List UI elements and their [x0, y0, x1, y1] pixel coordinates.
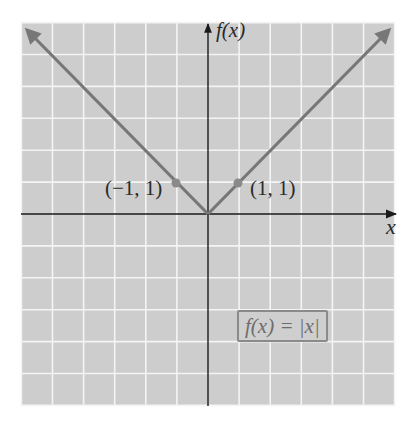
point-neg1-1 — [172, 179, 181, 188]
equation-text: f(x) = |x| — [245, 314, 320, 338]
point-1-1 — [234, 179, 243, 188]
point-label-left: (−1, 1) — [105, 176, 162, 201]
point-label-right: (1, 1) — [250, 176, 296, 201]
x-axis-label: x — [386, 214, 396, 240]
y-axis-label: f(x) — [216, 18, 245, 43]
graph-plot — [0, 0, 418, 425]
equation-label: f(x) = |x| — [237, 310, 328, 342]
